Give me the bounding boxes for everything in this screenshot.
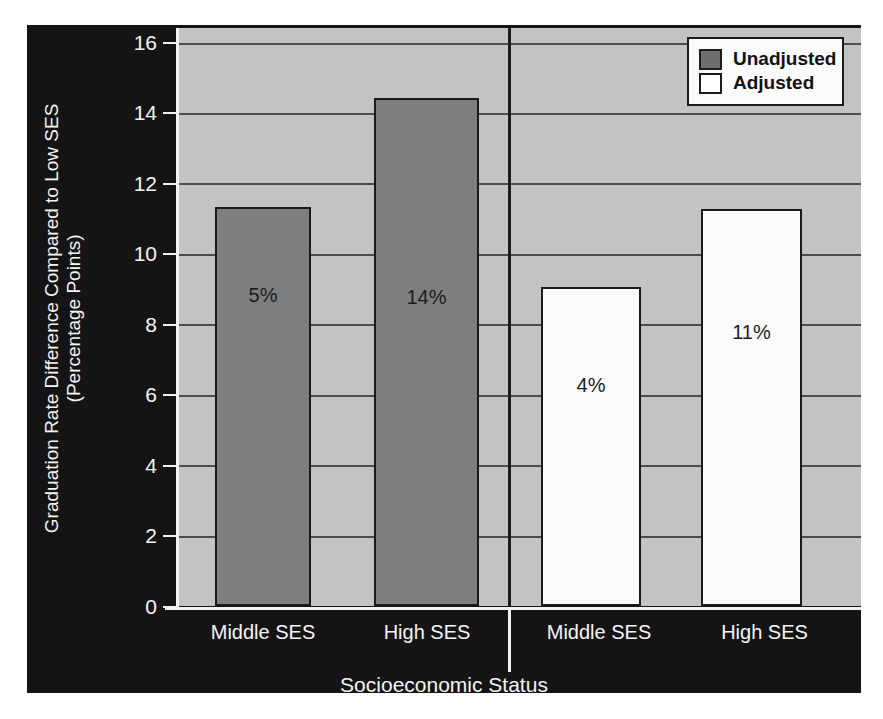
y-axis-title-line1: Graduation Rate Difference Compared to L… (41, 104, 62, 534)
y-tick-label-12: 12 (109, 173, 157, 194)
x-cat-label-unadjusted-high-ses: High SES (347, 621, 507, 644)
legend-label-unadjusted: Unadjusted (733, 48, 836, 70)
y-tick-label-14: 14 (109, 102, 157, 123)
legend-label-adjusted: Adjusted (733, 72, 814, 94)
legend-item-adjusted[interactable]: Adjusted (699, 72, 832, 94)
y-tick-14 (163, 112, 178, 114)
y-tick-8 (163, 324, 178, 326)
y-axis-line (176, 28, 179, 608)
legend-swatch-adjusted-icon (699, 73, 722, 94)
bar-label-adjusted-high-ses: 11% (703, 321, 800, 344)
y-tick-2 (163, 535, 178, 537)
y-tick-label-0: 0 (109, 596, 157, 617)
x-axis-line (165, 607, 861, 610)
y-tick-label-2: 2 (109, 525, 157, 546)
x-axis-group-divider-tick (508, 610, 511, 672)
y-axis-title-line2: (Percentage Points) (63, 38, 85, 598)
bar-adjusted-high-ses[interactable]: 11% (701, 209, 802, 606)
chart-figure: 5% 14% 4% 11% 16 14 12 10 8 6 4 2 0 Grad… (27, 25, 861, 693)
gridline-12 (179, 183, 861, 185)
bar-unadjusted-high-ses[interactable]: 14% (374, 98, 479, 606)
legend: Unadjusted Adjusted (687, 37, 844, 106)
bar-label-unadjusted-middle-ses: 5% (217, 284, 309, 307)
legend-swatch-unadjusted-icon (699, 49, 722, 70)
y-tick-label-16: 16 (109, 32, 157, 53)
y-axis-title: Graduation Rate Difference Compared to L… (41, 38, 86, 598)
y-tick-10 (163, 253, 178, 255)
bar-label-unadjusted-high-ses: 14% (376, 286, 477, 309)
y-tick-label-8: 8 (109, 314, 157, 335)
y-tick-label-4: 4 (109, 455, 157, 476)
y-tick-label-6: 6 (109, 384, 157, 405)
x-cat-label-unadjusted-middle-ses: Middle SES (179, 621, 347, 644)
x-axis-title: Socioeconomic Status (27, 673, 861, 697)
y-tick-label-10: 10 (109, 243, 157, 264)
bar-unadjusted-middle-ses[interactable]: 5% (215, 207, 311, 606)
y-tick-6 (163, 394, 178, 396)
bar-adjusted-middle-ses[interactable]: 4% (541, 287, 641, 606)
x-cat-label-adjusted-middle-ses: Middle SES (514, 621, 684, 644)
gridline-14 (179, 113, 861, 115)
bar-label-adjusted-middle-ses: 4% (543, 374, 639, 397)
legend-item-unadjusted[interactable]: Unadjusted (699, 48, 832, 70)
y-tick-4 (163, 465, 178, 467)
x-cat-label-adjusted-high-ses: High SES (682, 621, 847, 644)
plot-area: 5% 14% 4% 11% (179, 28, 861, 606)
y-tick-16 (163, 42, 178, 44)
y-tick-12 (163, 183, 178, 185)
group-divider-line (508, 28, 511, 606)
